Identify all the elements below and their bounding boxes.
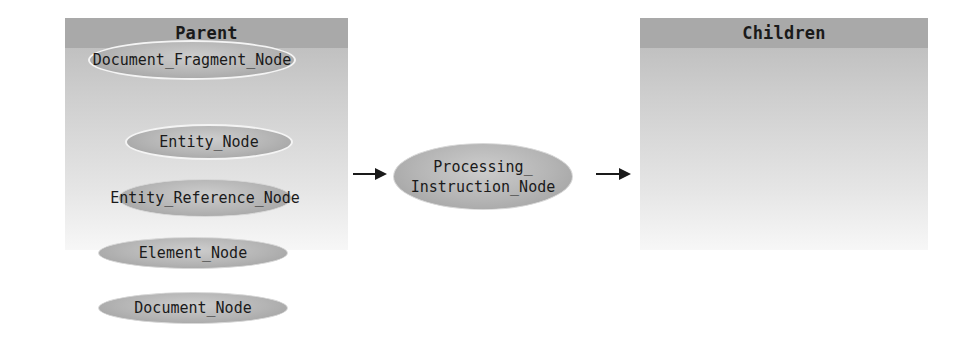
- node-element: Element_Node: [98, 237, 288, 269]
- node-label-line-2: Instruction_Node: [411, 177, 556, 197]
- node-document: Document_Node: [98, 292, 288, 324]
- children-panel-title: Children: [640, 18, 928, 48]
- node-document-fragment: Document_Fragment_Node: [88, 40, 296, 80]
- arrow-right-icon: [596, 173, 629, 175]
- node-label-line-1: Processing_: [411, 157, 556, 177]
- children-panel: Children: [640, 18, 928, 250]
- node-entity-reference: Entity_Reference_Node: [118, 179, 292, 217]
- arrow-right-icon: [353, 173, 385, 175]
- node-processing-instruction: Processing_ Instruction_Node: [393, 143, 573, 210]
- node-entity: Entity_Node: [125, 124, 293, 160]
- node-processing-instruction-label: Processing_ Instruction_Node: [411, 157, 556, 197]
